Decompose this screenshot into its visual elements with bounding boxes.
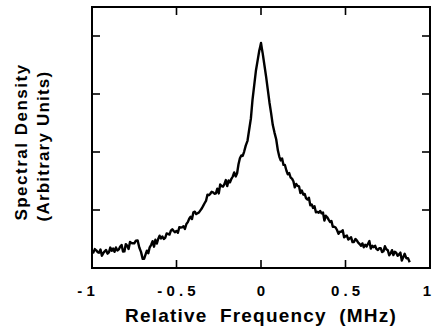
x-axis-label: Relative Frequency (MHz) [125,305,397,326]
x-tick-labels: - 1- 0 . 500 . 51 [77,282,431,299]
y-axis-label-line1: Spectral Density [12,63,31,220]
spectral-density-chart: Spectral Density (Arbitrary Units) - 1- … [0,0,437,332]
y-axis-label-line2: (Arbitrary Units) [34,71,53,222]
x-tick-label: 0 [257,282,265,299]
x-tick-label: 1 [423,282,431,299]
x-tick-label: - 1 [77,282,95,299]
x-tick-label: 0 . 5 [331,282,360,299]
spectrum-line [92,43,410,262]
x-tick-label: - 0 . 5 [157,282,195,299]
